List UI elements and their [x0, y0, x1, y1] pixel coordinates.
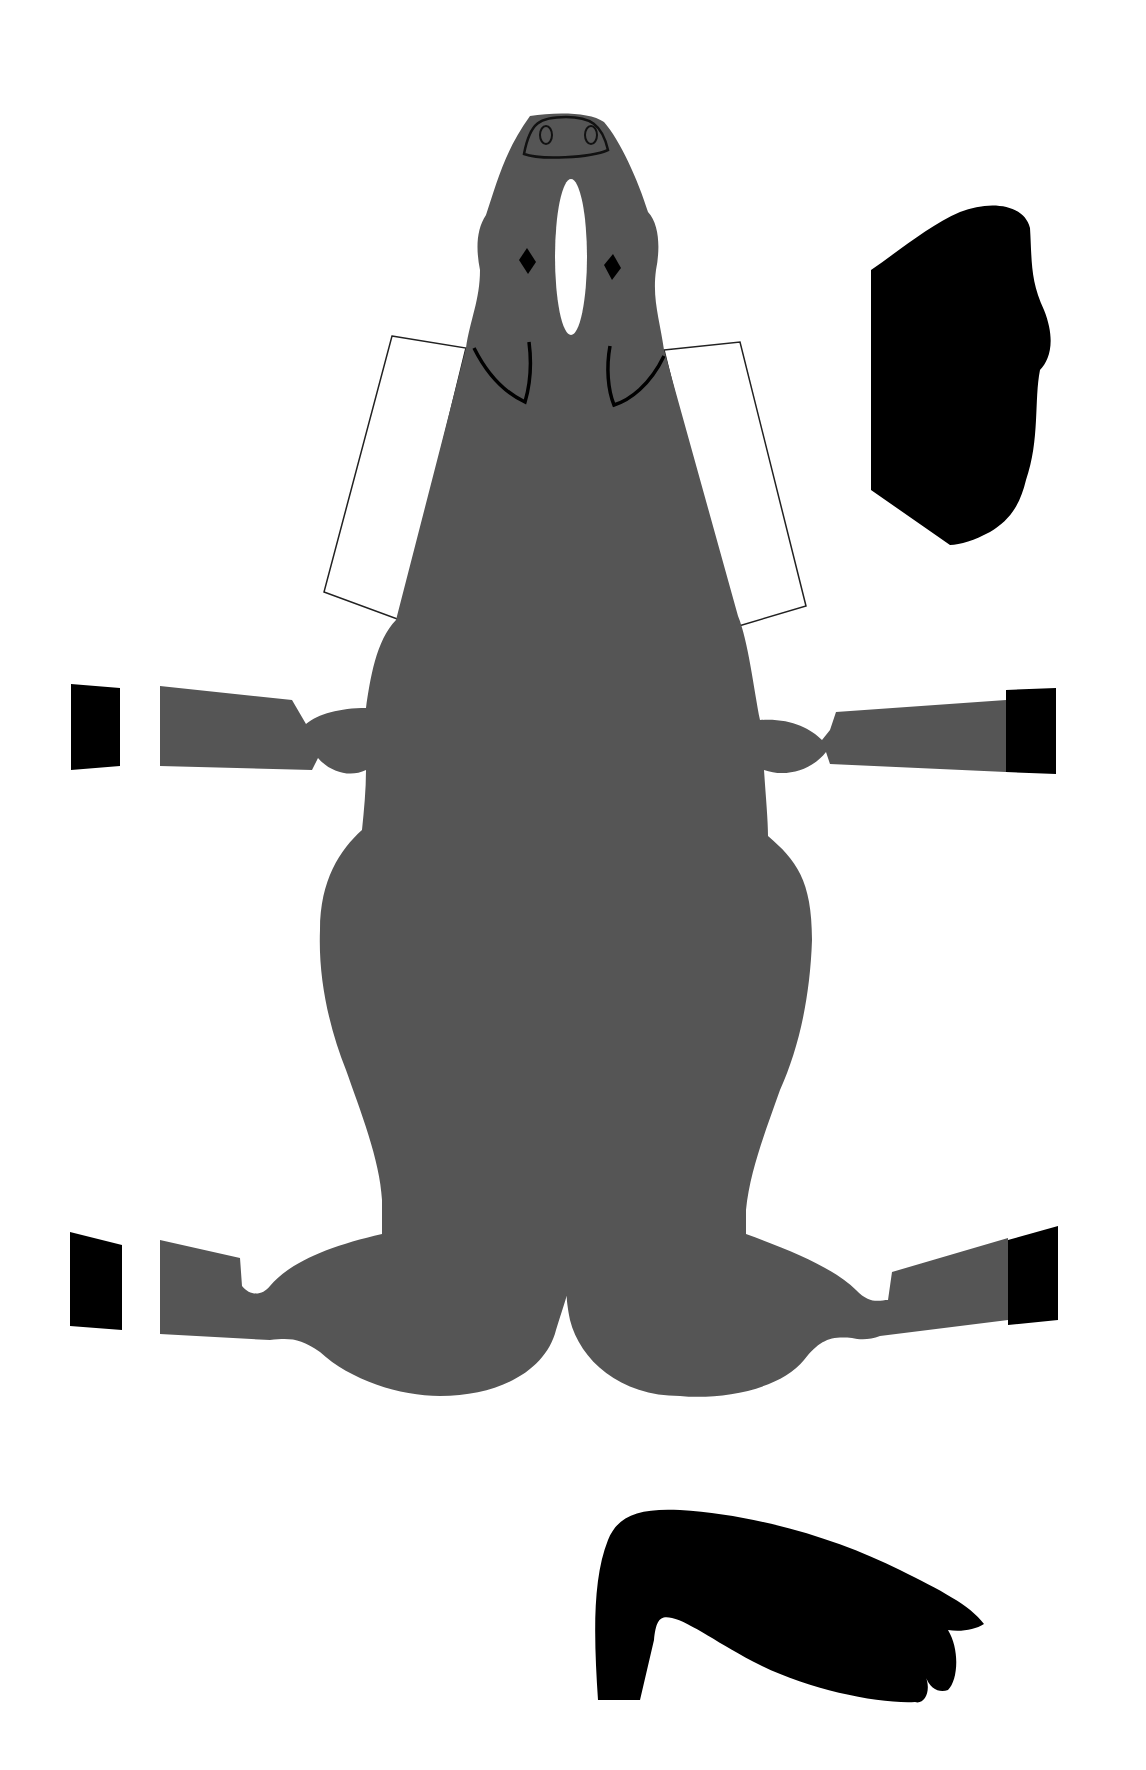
hoof-back-left [70, 1232, 122, 1330]
mane-piece [871, 205, 1051, 545]
tail-piece [595, 1510, 984, 1703]
hoof-front-left [71, 684, 120, 770]
papercraft-canvas [0, 0, 1146, 1770]
hoof-back-right [1008, 1226, 1058, 1325]
hoof-front-right [1006, 688, 1056, 774]
blaze [555, 179, 587, 335]
